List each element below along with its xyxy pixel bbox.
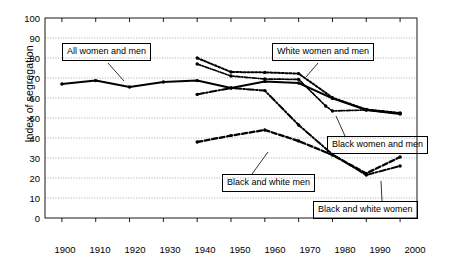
leader-line-white-women-and-men xyxy=(306,63,318,77)
series-black-and-white-women xyxy=(195,86,401,176)
leader-line-black-and-white-men xyxy=(252,152,268,174)
series-black-and-white-men xyxy=(195,128,401,175)
plot-canvas xyxy=(0,0,450,273)
series-white-women-and-men xyxy=(195,56,401,114)
segregation-line-chart: Index of segregation 100 90 80 70 60 50 … xyxy=(0,0,450,273)
leader-line-black-women-and-men xyxy=(336,116,345,136)
